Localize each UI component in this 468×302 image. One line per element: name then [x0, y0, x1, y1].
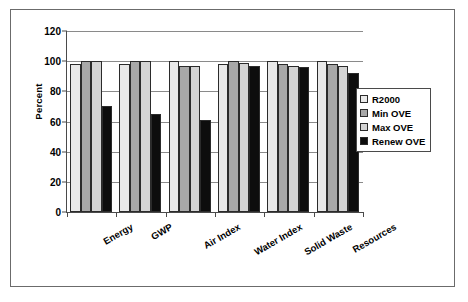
x-axis-category-labels: EnergyGWPAir IndexWater IndexSolid Waste… [66, 213, 363, 283]
x-axis-category-label: Water Index [252, 221, 304, 257]
legend-item[interactable]: Renew OVE [360, 134, 425, 148]
bar[interactable] [288, 66, 299, 212]
bar[interactable] [317, 61, 328, 212]
x-axis-category-label: GWP [149, 221, 174, 242]
bar-group [215, 31, 264, 212]
y-axis-tick-label: 80 [50, 86, 61, 97]
y-axis-tick-label: 100 [44, 56, 61, 67]
bar[interactable] [130, 61, 141, 212]
light-grid-swatch [360, 95, 368, 103]
chart-figure: Percent 020406080100120 EnergyGWPAir Ind… [0, 0, 468, 302]
bar[interactable] [267, 61, 278, 212]
bars-layer [67, 31, 363, 212]
bar[interactable] [327, 64, 338, 212]
bar[interactable] [299, 67, 310, 212]
legend-item-label: Min OVE [372, 108, 411, 119]
bar[interactable] [200, 120, 211, 212]
bar[interactable] [239, 63, 250, 212]
bar[interactable] [91, 61, 102, 212]
light-gray-swatch [360, 123, 368, 131]
bar-group [166, 31, 215, 212]
y-axis-tick-label: 20 [50, 176, 61, 187]
y-axis-tick-label: 60 [50, 116, 61, 127]
bar-group [116, 31, 165, 212]
bar[interactable] [169, 61, 180, 212]
y-axis-tick-label: 120 [44, 26, 61, 37]
bar[interactable] [102, 106, 113, 212]
legend-item-label: Renew OVE [372, 136, 425, 147]
bar[interactable] [190, 66, 201, 212]
bar-group [264, 31, 313, 212]
y-axis-title: Percent [33, 62, 44, 142]
legend-item-label: Max OVE [372, 122, 413, 133]
legend-item[interactable]: Max OVE [360, 120, 425, 134]
bar[interactable] [278, 64, 289, 212]
chart-legend: R2000Min OVEMax OVERenew OVE [356, 88, 431, 152]
bar[interactable] [179, 66, 190, 212]
bar-group [67, 31, 116, 212]
x-axis-category-label: Solid Waste [302, 221, 354, 257]
y-axis-tick-label: 0 [55, 207, 61, 218]
bar[interactable] [151, 114, 162, 212]
x-axis-category-label: Air Index [201, 221, 242, 251]
bar[interactable] [70, 64, 81, 212]
legend-item-label: R2000 [372, 94, 400, 105]
dark-grid-swatch [360, 109, 368, 117]
legend-item[interactable]: Min OVE [360, 106, 425, 120]
bar[interactable] [338, 66, 349, 212]
legend-item[interactable]: R2000 [360, 92, 425, 106]
bar[interactable] [81, 61, 92, 212]
black-swatch [360, 137, 368, 145]
y-axis-tick-label: 40 [50, 146, 61, 157]
bar[interactable] [228, 61, 239, 212]
x-axis-category-label: Energy [101, 221, 134, 247]
bar[interactable] [119, 64, 130, 212]
bar[interactable] [140, 61, 151, 212]
x-axis-tick-mark [363, 212, 364, 217]
plot-area: 020406080100120 [66, 31, 363, 213]
bar[interactable] [249, 66, 260, 212]
bar[interactable] [218, 64, 229, 212]
